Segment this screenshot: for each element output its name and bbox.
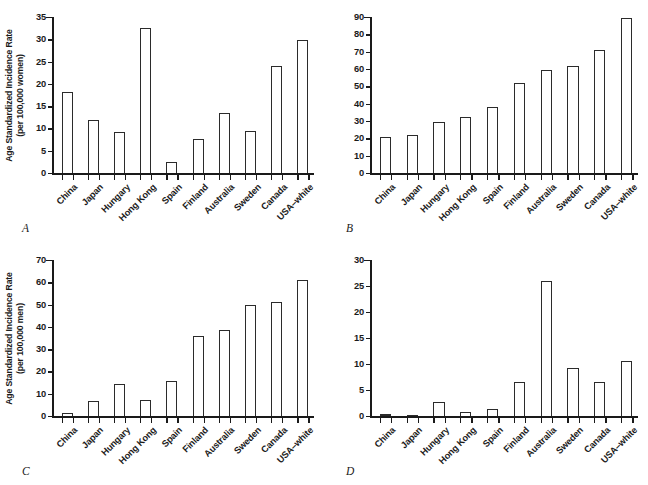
y-tick-label: 20 <box>354 133 364 143</box>
x-tick-mark <box>308 418 309 423</box>
y-tick-mark <box>364 17 372 18</box>
x-tick-mark <box>407 418 408 423</box>
x-axis-line-a <box>52 173 314 175</box>
y-axis-title-a-line1: Age Standardized Incidence Rate <box>4 29 14 162</box>
y-tick-mark <box>48 173 54 174</box>
x-tick-mark <box>605 175 606 180</box>
x-tick-mark <box>514 175 515 180</box>
x-tick-mark <box>245 418 246 423</box>
panel-c: Age Standardized Incidence Rate (per 100… <box>0 243 324 485</box>
y-tick-label: 10 <box>36 389 46 399</box>
x-tick-mark <box>282 175 283 180</box>
plot-area-a: 05101520253035 <box>52 17 314 175</box>
bar <box>621 18 632 173</box>
bar <box>514 83 525 173</box>
bar <box>407 135 418 173</box>
x-tick-mark <box>460 175 461 180</box>
plot-area-d: 051015202530 <box>370 260 638 418</box>
y-tick-label: 60 <box>36 277 46 287</box>
x-tick-mark <box>114 175 115 180</box>
x-tick-mark <box>99 175 100 180</box>
x-tick-mark <box>125 175 126 180</box>
plot-area-c: 010203040506070 <box>52 260 314 418</box>
bars-a <box>54 17 314 173</box>
x-tick-mark <box>567 175 568 180</box>
bar <box>621 361 632 416</box>
y-tick-label: 0 <box>359 411 364 421</box>
x-tick-mark <box>471 175 472 180</box>
bar <box>433 402 444 416</box>
panel-d: 051015202530 ChinaJapanHungaryHong KongS… <box>324 243 648 485</box>
x-tick-mark <box>621 175 622 180</box>
y-tick-label: 15 <box>36 101 46 111</box>
y-axis-title-c: Age Standardized Incidence Rate (per 100… <box>4 251 30 426</box>
panel-a: Age Standardized Incidence Rate (per 100… <box>0 0 324 242</box>
y-tick-mark <box>366 173 372 174</box>
y-tick-label: 20 <box>36 366 46 376</box>
x-tick-mark <box>460 418 461 423</box>
y-tick-label: 50 <box>354 81 364 91</box>
x-tick-mark <box>204 175 205 180</box>
bar <box>487 107 498 173</box>
y-tick-label: 70 <box>354 47 364 57</box>
y-tick-label: 30 <box>36 344 46 354</box>
x-tick-mark <box>62 418 63 423</box>
bar <box>114 132 125 173</box>
x-tick-mark <box>125 418 126 423</box>
y-tick-label: 10 <box>36 123 46 133</box>
x-tick-mark <box>567 418 568 423</box>
x-axis-line-c <box>52 416 314 418</box>
x-axis-label: China <box>373 182 398 207</box>
x-tick-mark <box>605 418 606 423</box>
x-tick-mark <box>73 175 74 180</box>
x-tick-mark <box>541 175 542 180</box>
y-tick-label: 80 <box>354 29 364 39</box>
y-tick-mark <box>364 260 372 261</box>
y-tick-label: 25 <box>36 57 46 67</box>
bar <box>140 400 151 416</box>
bar <box>245 131 256 173</box>
x-tick-mark <box>433 418 434 423</box>
y-axis-title-a-line2: (per 100,000 women) <box>15 8 26 183</box>
x-tick-mark <box>230 418 231 423</box>
panel-letter-c: C <box>22 465 30 477</box>
y-tick-label: 5 <box>359 385 364 395</box>
bar <box>460 117 471 173</box>
bar <box>88 120 99 173</box>
bar <box>297 280 308 416</box>
bars-c <box>54 260 314 416</box>
x-tick-mark <box>445 175 446 180</box>
bars-d <box>372 260 638 416</box>
x-tick-mark <box>245 175 246 180</box>
panel-letter-a: A <box>22 222 29 234</box>
x-tick-mark <box>525 175 526 180</box>
x-tick-mark <box>579 175 580 180</box>
x-axis-label: Japan <box>399 182 424 207</box>
x-tick-mark <box>256 418 257 423</box>
y-tick-label: 70 <box>36 255 46 265</box>
y-tick-label: 40 <box>354 99 364 109</box>
x-axis-label: Spain <box>160 182 184 206</box>
bar <box>166 162 177 173</box>
x-tick-mark <box>177 175 178 180</box>
bar <box>62 92 73 173</box>
y-axis-title-c-line1: Age Standardized Incidence Rate <box>4 272 14 405</box>
y-tick-label: 35 <box>36 12 46 22</box>
bar <box>380 414 391 416</box>
x-tick-mark <box>297 175 298 180</box>
x-axis-label: Japan <box>399 425 424 450</box>
bar <box>62 413 73 416</box>
x-tick-mark <box>271 418 272 423</box>
x-tick-mark <box>632 418 633 423</box>
y-axis-title-c-line2: (per 100,000 men) <box>15 251 26 426</box>
bar <box>219 330 230 416</box>
x-tick-mark <box>407 175 408 180</box>
bar <box>433 122 444 173</box>
x-tick-mark <box>140 175 141 180</box>
x-tick-mark <box>418 175 419 180</box>
x-tick-mark <box>62 175 63 180</box>
x-tick-mark <box>552 175 553 180</box>
bar <box>114 384 125 416</box>
x-tick-mark <box>433 175 434 180</box>
x-axis-label: Spain <box>160 425 184 449</box>
